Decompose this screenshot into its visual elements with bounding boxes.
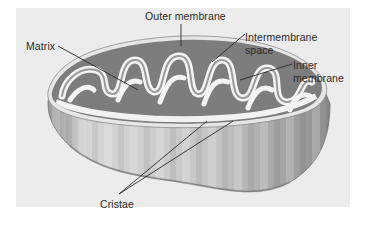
label-outer-membrane: Outer membrane [145,10,226,23]
label-inner-line2: membrane [293,72,344,85]
label-matrix: Matrix [26,40,55,53]
label-intermembrane-line2: space [245,44,318,57]
label-inner-membrane: Inner membrane [293,59,344,85]
label-intermembrane-space: Intermembrane space [245,31,318,57]
label-inner-line1: Inner [293,59,344,72]
label-intermembrane-line1: Intermembrane [245,31,318,44]
label-cristae: Cristae [100,198,134,211]
